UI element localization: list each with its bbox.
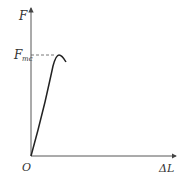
peak-label-subscript: mc [22,55,33,63]
origin-label: O [22,161,31,174]
force-curve [31,55,66,156]
force-elongation-diagram: F ΔL O F mc [0,0,187,179]
y-axis-label: F [18,9,28,23]
x-axis-label: ΔL [158,162,174,175]
